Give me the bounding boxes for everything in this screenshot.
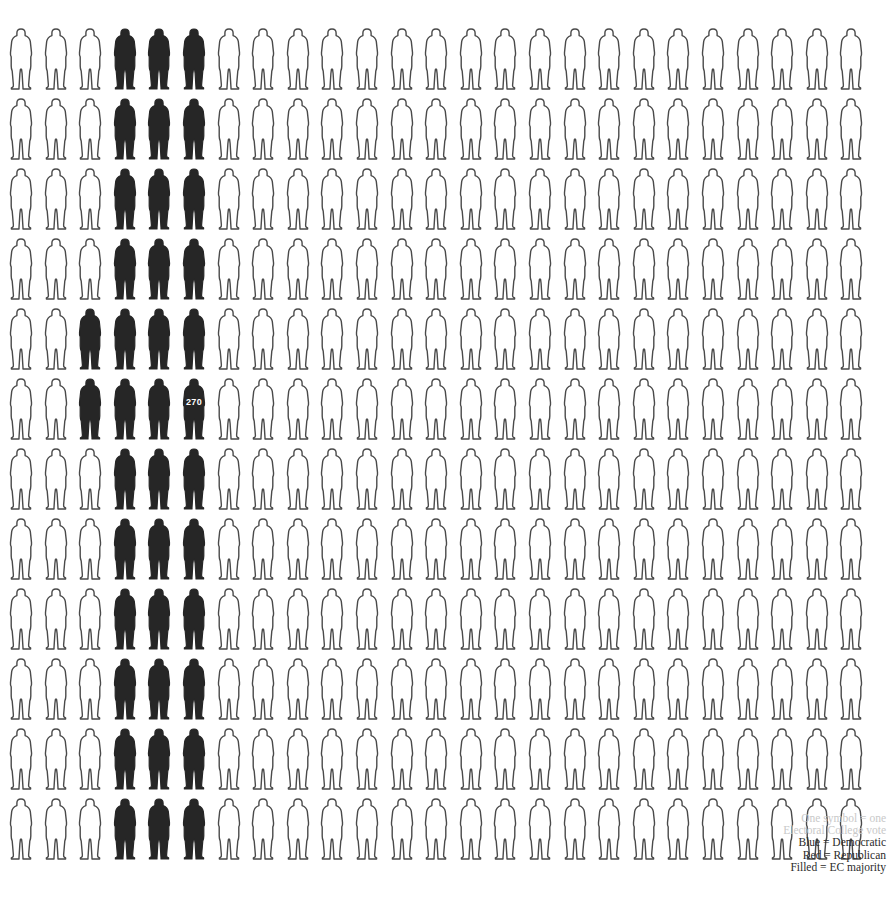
person-icon [389, 378, 415, 440]
pictogram-figure-outline [596, 448, 622, 510]
person-icon [423, 658, 449, 720]
pictogram-figure-outline [423, 308, 449, 370]
pictogram-figure-outline [77, 168, 103, 230]
pictogram-figure-outline [769, 378, 795, 440]
person-icon [389, 448, 415, 510]
pictogram-figure-outline [631, 28, 657, 90]
pictogram-figure-outline [389, 798, 415, 860]
person-icon [492, 588, 518, 650]
pictogram-figure-outline [43, 98, 69, 160]
person-icon [596, 658, 622, 720]
person-icon [665, 728, 691, 790]
pictogram-figure-outline [769, 98, 795, 160]
person-icon [458, 728, 484, 790]
pictogram-figure-filled [146, 588, 172, 650]
person-icon [43, 728, 69, 790]
person-icon [527, 98, 553, 160]
pictogram-figure-filled [146, 98, 172, 160]
person-icon [389, 168, 415, 230]
person-icon [804, 378, 830, 440]
pictogram-figure-outline [838, 238, 864, 300]
person-icon [458, 378, 484, 440]
pictogram-figure-filled [112, 448, 138, 510]
person-icon [181, 28, 207, 90]
pictogram-figure-outline [665, 448, 691, 510]
pictogram-figure-outline [735, 588, 761, 650]
person-icon [146, 518, 172, 580]
person-icon [354, 658, 380, 720]
person-icon [250, 798, 276, 860]
person-icon [804, 308, 830, 370]
person-icon [700, 588, 726, 650]
person-icon [423, 238, 449, 300]
person-icon [458, 658, 484, 720]
pictogram-figure-outline [492, 28, 518, 90]
pictogram-figure-outline [838, 518, 864, 580]
pictogram-figure-outline [700, 28, 726, 90]
person-icon [596, 518, 622, 580]
pictogram-figure-filled [146, 308, 172, 370]
person-icon [735, 588, 761, 650]
person-icon [8, 798, 34, 860]
person-icon [804, 238, 830, 300]
person-icon [769, 168, 795, 230]
person-icon [423, 168, 449, 230]
pictogram-figure-outline [285, 658, 311, 720]
person-icon [838, 308, 864, 370]
pictogram-figure-outline [43, 658, 69, 720]
person-icon [527, 238, 553, 300]
pictogram-figure-outline [43, 518, 69, 580]
pictogram-figure-outline [77, 448, 103, 510]
pictogram-figure-filled [146, 658, 172, 720]
person-icon [735, 168, 761, 230]
person-icon [804, 658, 830, 720]
pictogram-figure-outline [804, 448, 830, 510]
pictogram-figure-outline [77, 518, 103, 580]
pictogram-figure-outline [769, 728, 795, 790]
pictogram-figure-outline [527, 308, 553, 370]
pictogram-figure-outline [8, 448, 34, 510]
pictogram-figure-outline [562, 28, 588, 90]
pictogram-figure-outline [631, 658, 657, 720]
person-icon [250, 168, 276, 230]
pictogram-figure-outline [596, 28, 622, 90]
person-icon [735, 658, 761, 720]
person-icon [216, 448, 242, 510]
pictogram-figure-filled [112, 518, 138, 580]
person-icon [8, 588, 34, 650]
person-icon [216, 658, 242, 720]
person-icon [700, 238, 726, 300]
pictogram-figure-outline [665, 238, 691, 300]
person-icon [492, 798, 518, 860]
pictogram-figure-outline [804, 728, 830, 790]
person-icon [319, 658, 345, 720]
person-icon [735, 798, 761, 860]
pictogram-figure-outline [665, 378, 691, 440]
person-icon [77, 798, 103, 860]
pictogram-figure-outline [319, 728, 345, 790]
person-icon [354, 448, 380, 510]
pictogram-figure-outline [631, 518, 657, 580]
pictogram-figure-outline [77, 238, 103, 300]
person-icon [769, 378, 795, 440]
person-icon [8, 168, 34, 230]
person-icon [77, 98, 103, 160]
pictogram-figure-outline [77, 98, 103, 160]
person-icon [631, 658, 657, 720]
pictogram-figure-outline [285, 798, 311, 860]
pictogram-figure-outline [735, 448, 761, 510]
person-icon [43, 518, 69, 580]
pictogram-figure-outline [423, 658, 449, 720]
person-icon [43, 28, 69, 90]
pictogram-figure-filled [146, 168, 172, 230]
person-icon [527, 728, 553, 790]
pictogram-figure-outline [665, 658, 691, 720]
pictogram-figure-outline [423, 448, 449, 510]
pictogram-figure-outline [596, 98, 622, 160]
person-icon [285, 28, 311, 90]
pictogram-figure-outline [250, 98, 276, 160]
pictogram-figure-outline [596, 168, 622, 230]
pictogram-figure-outline [216, 588, 242, 650]
person-icon [146, 308, 172, 370]
pictogram-figure-outline [735, 518, 761, 580]
